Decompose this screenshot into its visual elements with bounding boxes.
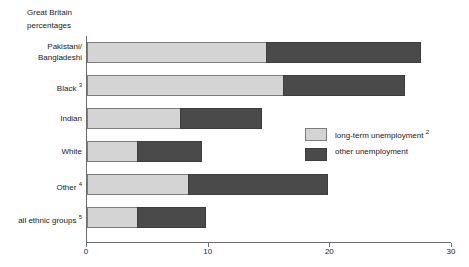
legend-label-long-term-unemployment: long-term unemployment 2 <box>335 127 429 141</box>
category-label-2: Indian <box>60 113 82 124</box>
bar-segment-long-term <box>87 207 138 228</box>
bar-row <box>87 174 328 195</box>
bar-segment-long-term <box>87 42 267 63</box>
bar-row <box>87 108 262 129</box>
bar-row <box>87 75 405 96</box>
category-axis-labels: Pakistani/BangladeshiBlack 3IndianWhiteO… <box>0 0 82 267</box>
bar-segment-long-term <box>87 108 181 129</box>
legend-footnote-marker: 2 <box>426 129 429 135</box>
bar-segment-long-term <box>87 75 284 96</box>
bar-segment-other <box>188 174 328 195</box>
bar-segment-long-term <box>87 174 189 195</box>
x-axis-line <box>86 242 451 243</box>
legend-swatch-long-term-unemployment <box>305 128 327 141</box>
bar-row <box>87 207 206 228</box>
bar-row <box>87 42 421 63</box>
x-axis-tick-label: 20 <box>325 247 334 256</box>
legend-item-other-unemployment: other unemployment <box>305 147 460 161</box>
category-label-4: Other 4 <box>56 179 82 193</box>
legend-item-long-term-unemployment: long-term unemployment 2 <box>305 127 460 141</box>
category-footnote-marker: 4 <box>79 181 82 187</box>
legend-swatch-other-unemployment <box>305 148 327 161</box>
x-axis-tick-label: 0 <box>84 247 88 256</box>
bar-segment-other <box>137 207 206 228</box>
chart-legend: long-term unemployment 2other unemployme… <box>305 127 460 167</box>
bar-segment-other <box>266 42 421 63</box>
bar-row <box>87 141 202 162</box>
x-axis-tick-label: 10 <box>203 247 212 256</box>
legend-label-other-unemployment: other unemployment <box>335 147 408 157</box>
category-footnote-marker: 5 <box>79 214 82 220</box>
category-label-1: Black 3 <box>57 80 82 94</box>
bar-segment-long-term <box>87 141 138 162</box>
bar-segment-other <box>180 108 263 129</box>
category-label-3: White <box>62 146 82 157</box>
category-footnote-marker: 3 <box>79 82 82 88</box>
category-label-5: all ethnic groups 5 <box>18 212 82 226</box>
category-label-0: Pakistani/Bangladeshi <box>38 41 82 63</box>
bar-segment-other <box>283 75 405 96</box>
bar-segment-other <box>137 141 201 162</box>
x-axis-tick-label: 30 <box>447 247 456 256</box>
